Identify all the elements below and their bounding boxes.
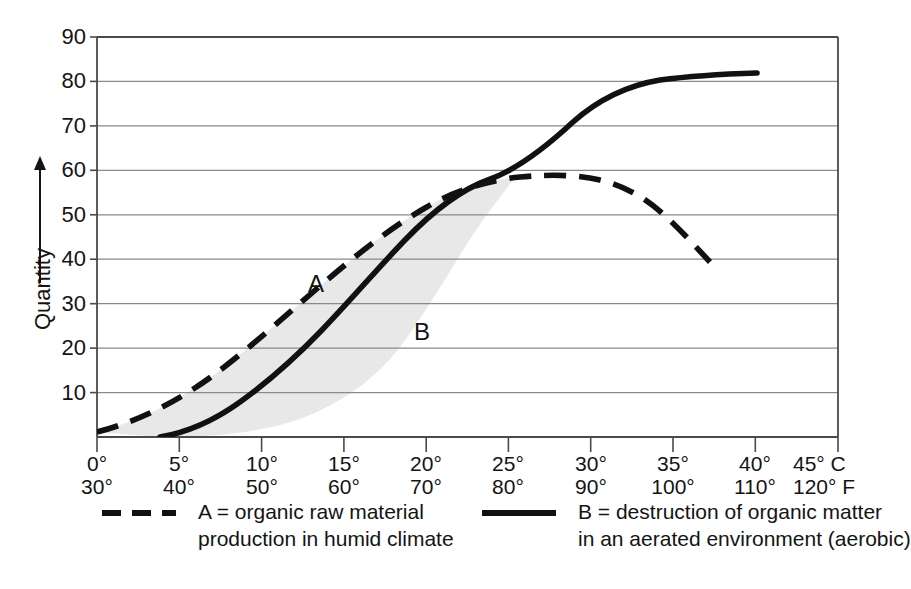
x-tick-45: 45° C 120° F xyxy=(793,452,897,498)
x-tick-30: 30° 90° xyxy=(546,452,636,498)
solid-line-key-icon xyxy=(480,506,558,520)
x-tick-marks xyxy=(97,437,838,452)
series-a-label: A xyxy=(308,270,324,297)
x-tick-5: 5° 40° xyxy=(134,452,224,498)
x-tick-20: 20° 70° xyxy=(381,452,471,498)
x-tick-0: 0° 30° xyxy=(52,452,142,498)
x-tick-25: 25° 80° xyxy=(463,452,553,498)
legend-item-b: B = destruction of organic matter in an … xyxy=(470,498,900,568)
series-b-label: B xyxy=(414,318,430,345)
legend-label-a: A = organic raw material production in h… xyxy=(198,498,454,552)
x-tick-35: 35° 100° xyxy=(628,452,718,498)
legend: A = organic raw material production in h… xyxy=(0,498,900,578)
legend-item-a: A = organic raw material production in h… xyxy=(0,498,420,568)
x-tick-10: 10° 50° xyxy=(217,452,307,498)
plot-area: A B xyxy=(0,0,900,500)
x-tick-15: 15° 60° xyxy=(299,452,389,498)
dashed-line-key-icon xyxy=(100,506,178,520)
legend-label-b: B = destruction of organic matter in an … xyxy=(578,498,911,552)
y-tick-marks xyxy=(90,37,97,393)
shaded-region xyxy=(97,177,516,437)
x-tick-40: 40° 110° xyxy=(710,452,800,498)
